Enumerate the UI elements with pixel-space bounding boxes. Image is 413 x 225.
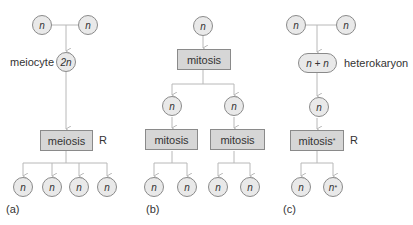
mitosis-product-recombinant: n* xyxy=(323,177,343,197)
haploid-nucleus: n xyxy=(309,97,329,117)
meiosis-product: n xyxy=(42,177,62,197)
meiosis-box: meiosis xyxy=(40,130,93,151)
caption-a: (a) xyxy=(6,203,19,215)
mitosis-product: n xyxy=(177,177,197,197)
parent-nucleus-left: n xyxy=(32,15,52,35)
product-superscript: * xyxy=(334,184,337,191)
mitosis-r-mark: R xyxy=(350,134,358,146)
mitosis-box-top: mitosis xyxy=(177,49,231,70)
mitosis-product: n xyxy=(208,177,228,197)
mitosis-product: n xyxy=(144,177,164,197)
heterokaryon-label: heterokaryon xyxy=(344,57,408,69)
mitosis-star-superscript: * xyxy=(333,137,336,144)
mitosis-box-left: mitosis xyxy=(145,129,198,150)
mitosis-product: n xyxy=(291,177,311,197)
meiosis-product: n xyxy=(13,177,33,197)
daughter-nucleus-right: n xyxy=(224,96,244,116)
mitosis-star-label: mitosis xyxy=(299,135,333,147)
meiocyte-node: 2n xyxy=(56,52,76,72)
meiosis-r-mark: R xyxy=(99,134,107,146)
caption-b: (b) xyxy=(146,203,159,215)
caption-c: (c) xyxy=(283,203,296,215)
meiosis-product: n xyxy=(97,177,117,197)
mitosis-product: n xyxy=(240,177,260,197)
heterokaryon-node: n + n xyxy=(298,53,337,73)
daughter-nucleus-left: n xyxy=(162,96,182,116)
meiocyte-label: meiocyte xyxy=(10,56,54,68)
parent-nucleus-right: n xyxy=(78,15,98,35)
haploid-nucleus: n xyxy=(193,16,213,36)
meiosis-product: n xyxy=(69,177,89,197)
parent-nucleus-left: n xyxy=(286,15,306,35)
mitosis-star-box: mitosis* xyxy=(290,130,344,151)
parent-nucleus-right: n xyxy=(336,15,356,35)
mitosis-box-right: mitosis xyxy=(210,129,265,150)
